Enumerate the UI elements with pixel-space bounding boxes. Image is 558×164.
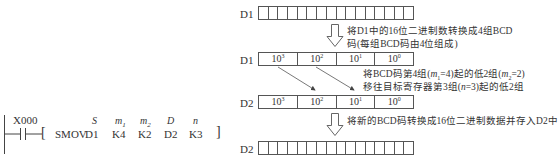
bcd-digit-1: 100 — [375, 96, 413, 108]
bcd-digit-1: 100 — [375, 53, 413, 65]
close-bracket: ] — [216, 126, 221, 138]
operand-name-m2: m2 — [140, 115, 151, 129]
register-label-d1-bcd: D1 — [240, 54, 253, 66]
bcd-digit-100: 102 — [298, 96, 337, 108]
note-step1-line1: 将D1中的16位二进制数转换成4组BCD — [347, 25, 512, 37]
down-arrow-icon — [326, 113, 344, 137]
bcd-digit-10: 101 — [337, 96, 376, 108]
operand-name-m1: m1 — [115, 115, 126, 129]
operand-name-n: n — [193, 115, 198, 126]
bcd-digit-10: 101 — [337, 53, 376, 65]
instruction-name: SMOV — [55, 128, 87, 140]
open-bracket: [ — [41, 127, 46, 139]
operand-s: D1 — [85, 128, 98, 140]
d2-bit-register — [258, 141, 414, 155]
operand-name-d: D — [167, 115, 174, 126]
down-arrow-icon — [326, 24, 344, 48]
operand-d: D2 — [164, 128, 177, 140]
operand-name-s: S — [92, 115, 97, 126]
operand-m2: K2 — [138, 128, 151, 140]
d2-bcd-register: 103 102 101 100 — [258, 95, 414, 109]
d1-bit-register — [258, 6, 414, 20]
note-step1-line2: 码(每组BCD码由4位组成) — [347, 38, 458, 50]
operand-m1: K4 — [112, 128, 125, 140]
d1-bcd-register: 103 102 101 100 — [258, 52, 414, 66]
note-step3: 将新的BCD码转换成16位二进制数据并存入D2中 — [347, 115, 558, 127]
bcd-digit-1000: 103 — [259, 96, 298, 108]
register-label-d2: D2 — [240, 143, 253, 155]
register-label-d1: D1 — [240, 8, 253, 20]
register-label-d2-bcd: D2 — [240, 97, 253, 109]
operand-n: K3 — [189, 128, 202, 140]
bcd-digit-100: 102 — [298, 53, 337, 65]
note-step2-line2: 移往目标寄存器第3组(n=3)起的低2组 — [363, 81, 524, 93]
bcd-digit-1000: 103 — [259, 53, 298, 65]
contact-label: X000 — [13, 114, 37, 126]
